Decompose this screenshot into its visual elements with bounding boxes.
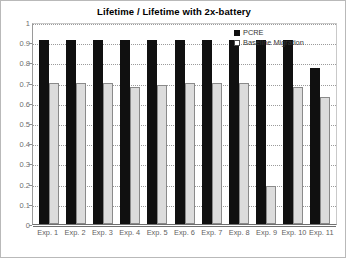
bar-group (225, 24, 252, 224)
legend-item-label: Baseline Migration (243, 38, 304, 47)
bar (93, 40, 103, 224)
chart-figure: Lifetime / Lifetime with 2x-battery 10.9… (0, 0, 346, 258)
bar (320, 97, 330, 224)
bar (229, 40, 239, 224)
y-axis-tick-label: 0.4 (1, 140, 30, 149)
bar (212, 83, 222, 224)
x-axis-tick-label: Exp. 10 (280, 228, 307, 244)
bar (256, 40, 266, 224)
x-axis-tick-label: Exp. 3 (89, 228, 116, 244)
x-axis-tick-label: Exp. 1 (34, 228, 61, 244)
x-axis-tick-label: Exp. 8 (226, 228, 253, 244)
y-axis-tick-label: 0.8 (1, 59, 30, 68)
legend-item-label: PCRE (243, 28, 264, 37)
y-axis-tick-label: 0.9 (1, 39, 30, 48)
bar (239, 83, 249, 224)
x-axis-tick-label: Exp. 11 (308, 228, 335, 244)
x-axis-tick-label: Exp. 9 (253, 228, 280, 244)
legend-item-baseline-migration: Baseline Migration (234, 38, 304, 47)
bar (202, 40, 212, 224)
bar (130, 87, 140, 224)
x-axis-labels: Exp. 1Exp. 2Exp. 3Exp. 4Exp. 5Exp. 6Exp.… (32, 228, 337, 244)
y-axis-tick-label: 0.2 (1, 180, 30, 189)
x-axis-tick-label: Exp. 5 (143, 228, 170, 244)
y-axis-tick-label: 0.3 (1, 160, 30, 169)
bar (293, 87, 303, 224)
bar (283, 40, 293, 224)
filled-square-swatch-icon (234, 30, 240, 36)
x-axis-tick-label: Exp. 7 (198, 228, 225, 244)
y-axis-tick-label: 1 (1, 19, 30, 28)
bar-group (198, 24, 225, 224)
bar (76, 83, 86, 224)
bar-group (307, 24, 334, 224)
bar (103, 83, 113, 224)
bar-group (62, 24, 89, 224)
bar-group (35, 24, 62, 224)
legend-item-pcre: PCRE (234, 28, 304, 37)
bar (120, 40, 130, 224)
y-axis-tick-label: 0.5 (1, 120, 30, 129)
y-axis-tick-label: 0.7 (1, 79, 30, 88)
bar-group (89, 24, 116, 224)
x-axis-tick-label: Exp. 4 (116, 228, 143, 244)
bar (39, 40, 49, 224)
bar (157, 85, 167, 224)
bar-group (171, 24, 198, 224)
bar (185, 83, 195, 224)
bar-group (280, 24, 307, 224)
bar (49, 83, 59, 224)
gridline (33, 226, 336, 227)
outlined-square-swatch-icon (234, 40, 240, 46)
y-axis-tick-mark (29, 225, 32, 226)
plot-area (32, 23, 337, 225)
bar-groups (33, 24, 336, 224)
y-axis-tick-label: 0 (1, 221, 30, 230)
x-axis-tick-label: Exp. 2 (61, 228, 88, 244)
bar (147, 40, 157, 224)
y-axis-tick-label: 0.6 (1, 99, 30, 108)
x-axis-tick-label: Exp. 6 (171, 228, 198, 244)
bar (66, 40, 76, 224)
bar-group (117, 24, 144, 224)
bar (175, 40, 185, 224)
y-axis-tick-label: 0.1 (1, 200, 30, 209)
bar (310, 68, 320, 224)
legend: PCRE Baseline Migration (234, 28, 304, 47)
bar-group (144, 24, 171, 224)
bar-group (253, 24, 280, 224)
bar (266, 186, 276, 224)
